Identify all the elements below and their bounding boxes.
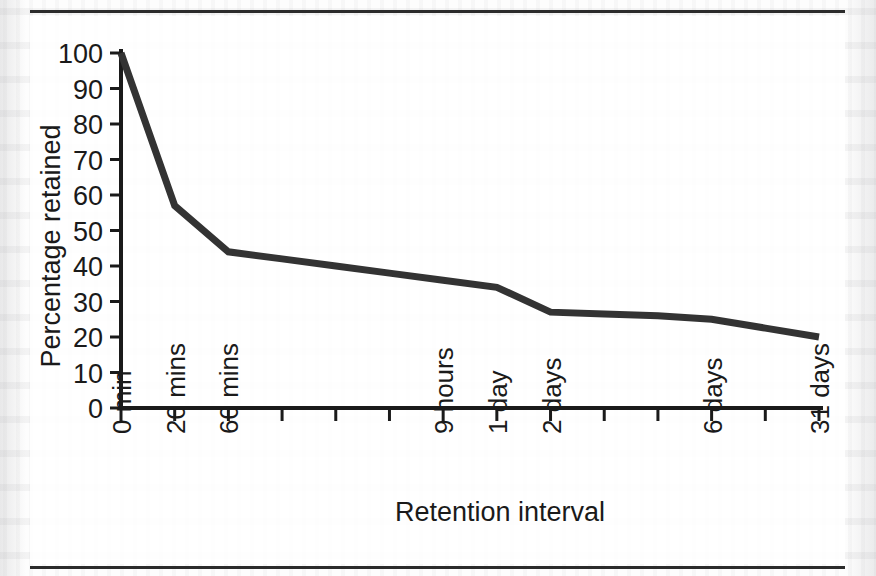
x-tick-label: 2 days: [537, 357, 567, 434]
page-edge-shadow-left: [0, 0, 26, 576]
y-tick-label: 60: [73, 181, 103, 211]
scanned-page: 0102030405060708090100 0 min20 mins60 mi…: [0, 0, 876, 576]
y-axis: 0102030405060708090100: [58, 39, 121, 424]
forgetting-curve-chart: 0102030405060708090100 0 min20 mins60 mi…: [30, 16, 845, 564]
x-tick-label: 1 day: [483, 370, 513, 434]
x-tick-label: 6 days: [698, 357, 728, 434]
x-tick-label: 9 hours: [429, 347, 459, 434]
y-tick-label: 80: [73, 110, 103, 140]
x-tick-label: 60 mins: [214, 343, 244, 434]
y-tick-label: 40: [73, 252, 103, 282]
y-tick-label: 50: [73, 217, 103, 247]
y-axis-title: Percentage retained: [36, 124, 66, 367]
y-tick-label: 30: [73, 288, 103, 318]
x-tick-label: 20 mins: [161, 343, 191, 434]
y-tick-label: 0: [88, 394, 103, 424]
figure-panel: 0102030405060708090100 0 min20 mins60 mi…: [30, 16, 845, 564]
y-tick-label: 20: [73, 323, 103, 353]
y-tick-label: 90: [73, 75, 103, 105]
retention-curve-line: [121, 53, 819, 337]
x-axis-title: Retention interval: [395, 497, 605, 527]
x-tick-label: 31 days: [805, 343, 835, 434]
figure-bottom-rule: [30, 566, 845, 569]
x-axis: 0 min20 mins60 mins9 hours1 day2 days6 d…: [107, 343, 835, 434]
y-tick-label: 100: [58, 39, 103, 69]
y-tick-label: 10: [73, 359, 103, 389]
x-tick-label: 0 min: [107, 370, 137, 434]
page-edge-shadow-right: [846, 0, 876, 576]
figure-top-rule: [30, 10, 845, 13]
y-tick-label: 70: [73, 146, 103, 176]
